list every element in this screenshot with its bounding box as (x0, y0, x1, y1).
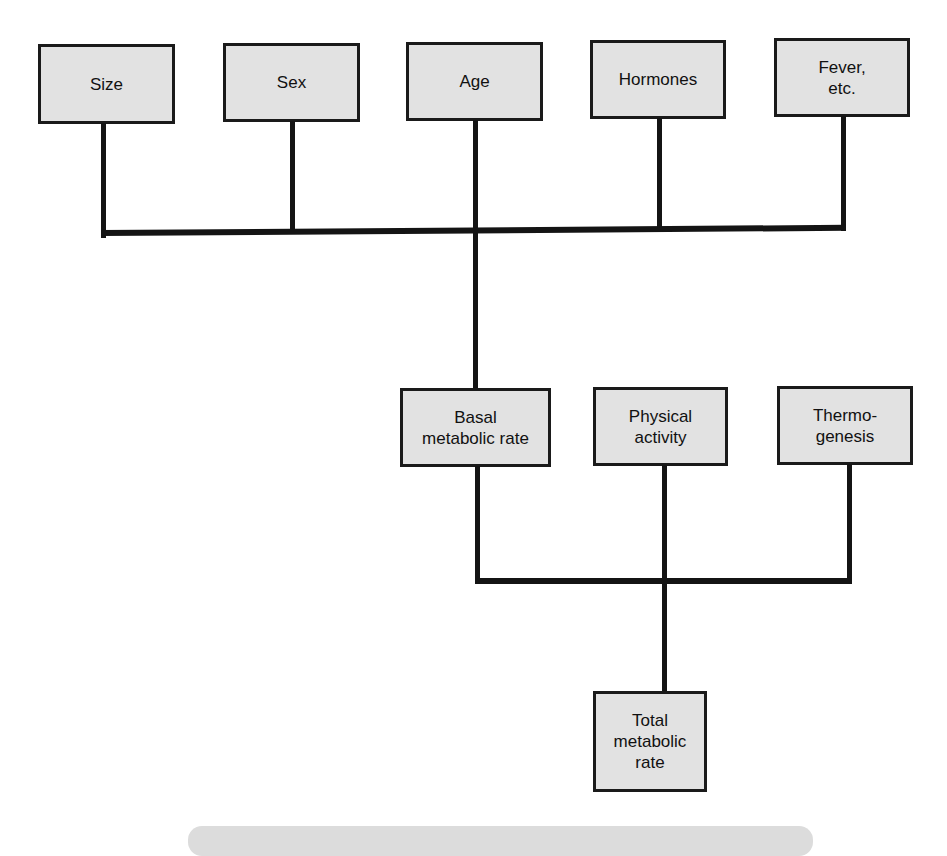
node-age-label: Age (459, 71, 489, 92)
node-size: Size (38, 44, 175, 124)
connector-thermo (847, 464, 852, 582)
connector-middle-horizontal (475, 578, 852, 584)
node-thermogenesis: Thermo- genesis (777, 386, 913, 465)
node-total-metabolic-rate: Total metabolic rate (593, 691, 707, 792)
node-fever: Fever, etc. (774, 38, 910, 117)
node-hormones-label: Hormones (619, 69, 697, 90)
connector-fever (841, 116, 846, 231)
connector-age (473, 120, 478, 393)
connector-physical (662, 465, 667, 710)
caption-bar (188, 826, 813, 856)
node-physical-activity-label: Physical activity (629, 406, 692, 448)
connector-bmr (475, 466, 480, 584)
node-basal-metabolic-rate-label: Basal metabolic rate (422, 407, 529, 449)
node-sex: Sex (223, 43, 360, 122)
node-thermogenesis-label: Thermo- genesis (813, 405, 877, 447)
node-total-metabolic-rate-label: Total metabolic rate (614, 710, 687, 773)
node-physical-activity: Physical activity (593, 387, 728, 466)
node-hormones: Hormones (590, 40, 726, 119)
node-size-label: Size (90, 74, 123, 95)
connector-size (101, 123, 106, 238)
node-basal-metabolic-rate: Basal metabolic rate (400, 388, 551, 467)
node-age: Age (406, 42, 543, 121)
connector-hormones (657, 118, 662, 232)
node-fever-label: Fever, etc. (818, 57, 865, 99)
node-sex-label: Sex (277, 72, 306, 93)
connector-sex (290, 121, 295, 234)
